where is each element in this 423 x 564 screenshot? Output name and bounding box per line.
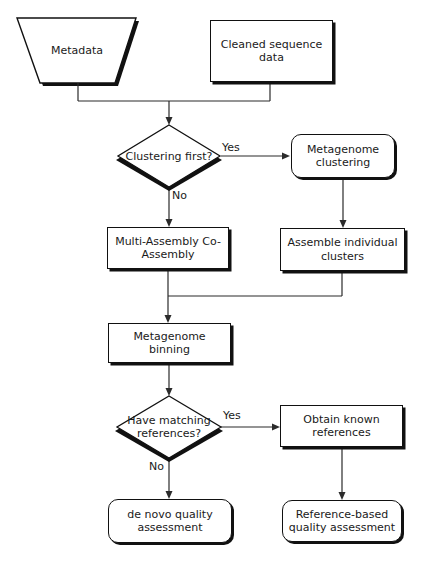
- node-metagenome-clustering: Metagenome clustering: [291, 134, 395, 178]
- node-multi-assembly-co-assembly-label: Multi-Assembly Co-Assembly: [112, 235, 224, 262]
- node-metadata-label: Metadata: [51, 44, 103, 57]
- node-cleaned-sequence-data: Cleaned sequence data: [210, 20, 333, 82]
- edge-label-references-yes: Yes: [223, 410, 241, 422]
- node-de-novo-quality-assessment: de novo quality assessment: [108, 499, 232, 543]
- node-cleaned-sequence-data-label: Cleaned sequence data: [215, 38, 328, 65]
- node-de-novo-quality-assessment-label: de novo quality assessment: [113, 508, 227, 535]
- node-metagenome-binning: Metagenome binning: [108, 323, 231, 363]
- node-assemble-individual-clusters-label: Assemble individual clusters: [285, 236, 400, 263]
- node-obtain-known-references: Obtain known references: [280, 405, 403, 447]
- arrow-no-to-de-novo-qa: [166, 491, 173, 499]
- node-reference-based-quality-assessment-label: Reference-based quality assessment: [287, 508, 397, 535]
- node-metadata: Metadata: [27, 38, 127, 62]
- node-multi-assembly-co-assembly: Multi-Assembly Co-Assembly: [107, 227, 229, 269]
- node-have-matching-references: Have matching references?: [119, 412, 219, 442]
- node-have-matching-references-label: Have matching references?: [119, 414, 219, 440]
- node-assemble-individual-clusters: Assemble individual clusters: [280, 228, 405, 271]
- node-reference-based-quality-assessment: Reference-based quality assessment: [282, 500, 402, 542]
- arrow-yes-to-obtain-references: [272, 424, 280, 431]
- arrow-yes-to-metagenome-clustering: [282, 153, 290, 160]
- arrow-into-clustering-diamond: [166, 117, 173, 125]
- arrow-to-metagenome-binning: [165, 315, 172, 323]
- edge-label-clustering-no: No: [172, 190, 187, 202]
- flowchart-canvas: Metadata Cleaned sequence data Metagenom…: [0, 0, 423, 564]
- arrow-no-to-multi-assembly: [166, 219, 173, 227]
- edge-label-references-no: No: [149, 461, 164, 473]
- flowchart-connectors: [0, 0, 423, 564]
- arrow-to-assemble-clusters: [340, 220, 347, 228]
- node-clustering-first-label: Clustering first?: [126, 150, 213, 163]
- edge-label-clustering-yes: Yes: [222, 142, 240, 154]
- arrow-into-references-diamond: [166, 388, 173, 396]
- node-obtain-known-references-label: Obtain known references: [285, 413, 398, 440]
- node-metagenome-binning-label: Metagenome binning: [113, 330, 226, 357]
- node-metagenome-clustering-label: Metagenome clustering: [296, 143, 390, 170]
- arrow-to-reference-based-qa: [339, 492, 346, 500]
- node-clustering-first: Clustering first?: [119, 144, 219, 168]
